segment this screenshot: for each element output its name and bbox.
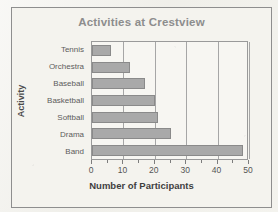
bar-baseball xyxy=(92,78,145,89)
bar-row xyxy=(92,92,247,109)
x-axis-tick-label: 40 xyxy=(212,165,221,175)
bar-softball xyxy=(92,112,158,123)
x-axis-major-tick xyxy=(122,160,123,164)
bar-basketball xyxy=(92,95,155,106)
y-axis-label: Softball xyxy=(40,109,88,126)
x-axis-tick-label: 20 xyxy=(149,165,158,175)
gridline xyxy=(249,42,250,159)
x-axis-minor-tick xyxy=(201,160,202,163)
x-axis-minor-tick xyxy=(138,160,139,163)
bar-series xyxy=(92,42,247,159)
x-axis-tick-label: 10 xyxy=(118,165,127,175)
bar-row xyxy=(92,109,247,126)
x-axis-major-tick xyxy=(91,160,92,164)
figure-frame: Activities at Crestview Activity Tennis … xyxy=(11,7,272,208)
bar-row xyxy=(92,126,247,143)
x-axis-major-tick xyxy=(154,160,155,164)
bar-row xyxy=(92,142,247,159)
y-axis-title: Activity xyxy=(14,41,28,160)
x-axis-tick-labels: 01020304050 xyxy=(91,165,248,177)
x-axis-major-tick xyxy=(185,160,186,164)
x-axis-minor-tick xyxy=(232,160,233,163)
x-axis-tick-label: 50 xyxy=(243,165,252,175)
x-axis-minor-tick xyxy=(170,160,171,163)
x-axis-tick-label: 0 xyxy=(89,165,94,175)
chart-title: Activities at Crestview xyxy=(12,16,271,28)
x-axis-minor-tick xyxy=(107,160,108,163)
plot-area xyxy=(91,41,248,160)
bar-row xyxy=(92,42,247,59)
y-axis-label: Tennis xyxy=(40,41,88,58)
x-axis-major-tick xyxy=(217,160,218,164)
scanned-page: Activities at Crestview Activity Tennis … xyxy=(0,0,278,212)
y-axis-category-labels: Tennis Orchestra Baseball Basketball Sof… xyxy=(40,41,88,160)
bar-row xyxy=(92,59,247,76)
y-axis-label: Band xyxy=(40,143,88,160)
bar-tennis xyxy=(92,45,111,56)
y-axis-label: Basketball xyxy=(40,92,88,109)
x-axis-major-tick xyxy=(248,160,249,164)
y-axis-label: Baseball xyxy=(40,75,88,92)
bar-drama xyxy=(92,128,171,139)
y-axis-title-label: Activity xyxy=(16,84,26,117)
y-axis-label: Orchestra xyxy=(40,58,88,75)
x-axis-tick-label: 30 xyxy=(180,165,189,175)
bar-row xyxy=(92,75,247,92)
y-axis-label: Drama xyxy=(40,126,88,143)
bar-band xyxy=(92,145,243,156)
bar-chart-figure: Activities at Crestview Activity Tennis … xyxy=(12,8,271,207)
x-axis-title: Number of Participants xyxy=(12,180,271,191)
bar-orchestra xyxy=(92,62,130,73)
